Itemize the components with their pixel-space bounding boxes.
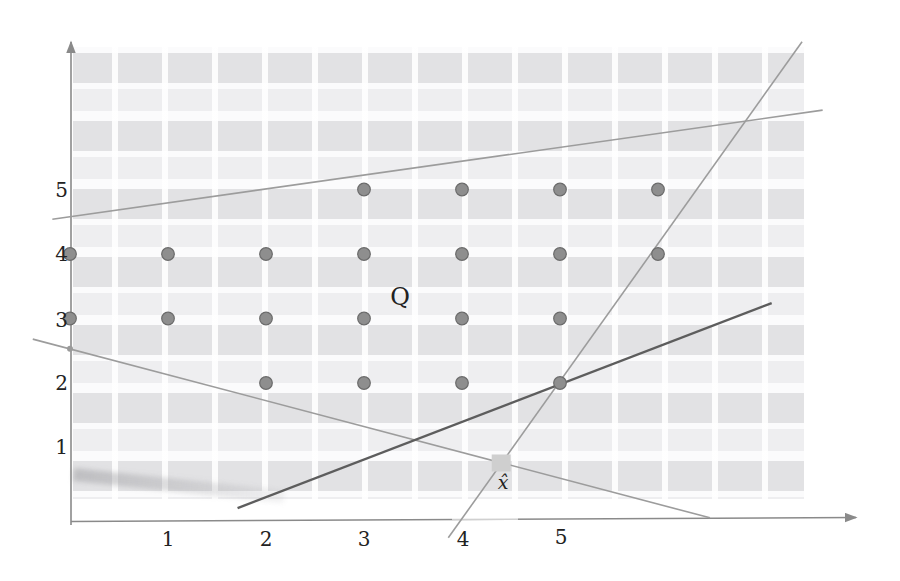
x-tick-1: 1 [162,527,175,551]
integer-point [456,312,469,325]
integer-point [260,377,273,390]
xhat-marker [492,454,511,471]
integer-point [162,248,175,261]
y-tick-5: 5 [55,178,68,202]
integer-point [162,312,175,325]
y-tick-2: 2 [55,371,68,395]
region-label-Q: Q [390,283,410,311]
xhat-label: x̂ [498,471,509,493]
integer-point [554,248,567,261]
integer-point [260,312,273,325]
integer-point [456,248,469,261]
y-tick-3: 3 [55,308,68,332]
integer-point [358,377,371,390]
x-tick-3: 3 [358,527,371,551]
x-tick-2: 2 [260,527,273,551]
integer-point [358,248,371,261]
figure-canvas: 1 2 3 4 5 1 2 3 4 5 Q x̂ [0,0,900,581]
integer-point [456,377,469,390]
integer-point [554,183,567,196]
x-tick-4: 4 [457,527,470,551]
integer-point [554,312,567,325]
integer-point [652,183,665,196]
y-tick-1: 1 [55,435,68,459]
y-axis-vertex-point [67,346,73,352]
upper-constraint-line [52,110,822,219]
integer-point [456,183,469,196]
integer-point [358,183,371,196]
integer-point [260,248,273,261]
integer-point [554,377,567,390]
x-tick-5: 5 [555,525,568,549]
y-tick-4: 4 [55,242,68,266]
plot-svg: 1 2 3 4 5 1 2 3 4 5 Q x̂ [0,0,900,581]
integer-point [652,248,665,261]
integer-point [358,312,371,325]
